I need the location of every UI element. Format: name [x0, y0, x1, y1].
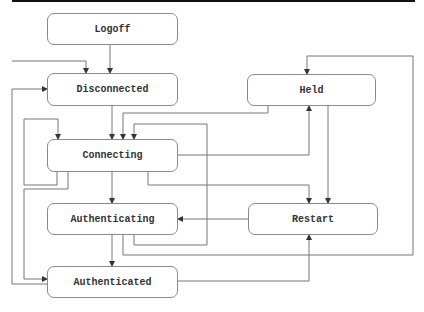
node-label: Disconnected [76, 84, 148, 95]
node-logoff[interactable]: Logoff [47, 13, 178, 45]
edge-authenticated-restart [178, 235, 309, 281]
node-label: Logoff [94, 24, 130, 35]
node-held[interactable]: Held [247, 74, 376, 106]
edge-external-disconnected [12, 61, 86, 73]
node-label: Held [299, 85, 323, 96]
node-restart[interactable]: Restart [248, 203, 378, 235]
edge-authenticated-disconnected [12, 89, 47, 284]
edge-held-connecting [123, 106, 268, 139]
node-disconnected[interactable]: Disconnected [47, 73, 178, 106]
node-authenticating[interactable]: Authenticating [47, 203, 178, 235]
node-label: Restart [292, 214, 334, 225]
node-label: Connecting [82, 150, 142, 161]
node-label: Authenticating [70, 214, 154, 225]
node-authenticated[interactable]: Authenticated [47, 266, 178, 298]
edge-connecting-restart [148, 172, 309, 203]
node-label: Authenticated [73, 277, 151, 288]
node-connecting[interactable]: Connecting [47, 139, 178, 172]
